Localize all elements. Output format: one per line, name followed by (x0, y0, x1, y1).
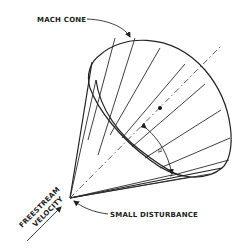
mach-cone-label: MACH CONE (37, 16, 86, 24)
axis-point (158, 106, 162, 110)
cone-inner-edge (96, 80, 178, 175)
generator-line (70, 168, 222, 198)
hatch-line (160, 138, 230, 168)
mach-cone-leader (87, 19, 130, 37)
hatch-line (145, 110, 221, 158)
mach-cone-diagram: μ MACH CONE SMALL DISTURBANCE FREESTREAM… (0, 0, 246, 251)
generator-line (70, 62, 92, 198)
cone-generator-lines (70, 62, 222, 198)
hatch-line (132, 84, 205, 147)
small-disturbance-label: SMALL DISTURBANCE (110, 211, 198, 219)
freestream-velocity-label: FREESTREAM VELOCITY (18, 185, 68, 235)
generator-line (70, 177, 190, 198)
small-disturbance-leader (74, 201, 108, 214)
mach-angle-symbol: μ (158, 146, 162, 154)
hatch-line (110, 48, 160, 135)
generator-line (70, 80, 96, 198)
hatch-line (122, 64, 185, 138)
generator-line (70, 175, 172, 198)
hatch-line (98, 38, 135, 155)
